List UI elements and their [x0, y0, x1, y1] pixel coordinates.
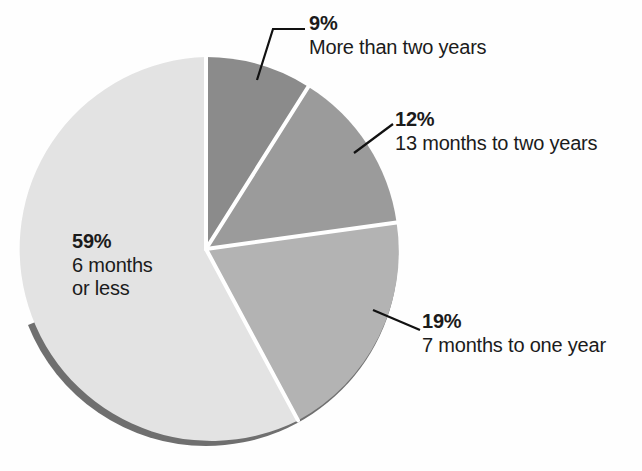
slice-label-13-months-two-years: 12% 13 months to two years [395, 108, 597, 155]
slice-percent-more-than-two-years: 9% [309, 12, 486, 36]
slice-name-13-months-two-years: 13 months to two years [395, 132, 597, 156]
slice-percent-7-months-one-year: 19% [422, 310, 606, 334]
slice-name-more-than-two-years: More than two years [309, 36, 486, 60]
slice-name-line: 7 months to one year [422, 334, 606, 358]
pie-chart-figure: 9% More than two years 12% 13 months to … [0, 0, 642, 471]
slice-name-line: 13 months to two years [395, 132, 597, 156]
slice-name-7-months-one-year: 7 months to one year [422, 334, 606, 358]
slice-name-line: More than two years [309, 36, 486, 60]
slice-name-line: 6 months [72, 254, 153, 278]
slice-name-6-months-or-less: 6 months or less [72, 254, 153, 301]
slice-percent-13-months-two-years: 12% [395, 108, 597, 132]
slice-percent-6-months-or-less: 59% [72, 230, 153, 254]
slice-label-7-months-one-year: 19% 7 months to one year [422, 310, 606, 357]
slice-label-more-than-two-years: 9% More than two years [309, 12, 486, 59]
slice-label-6-months-or-less: 59% 6 months or less [72, 230, 153, 301]
slice-name-line: or less [72, 277, 153, 301]
